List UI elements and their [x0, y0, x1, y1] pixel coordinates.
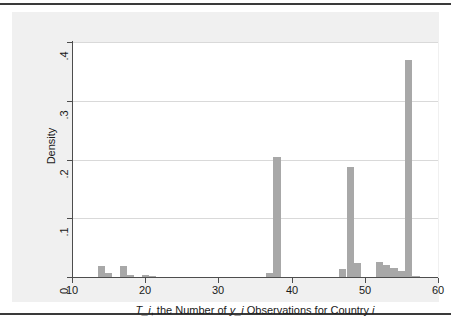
y-tick-label: .3 [58, 100, 70, 130]
x-axis-title: T_i, the Number of y_i Observations for … [72, 304, 438, 316]
y-tick-label: .4 [58, 41, 70, 71]
histogram-bar [98, 266, 105, 277]
x-tick-mark [145, 278, 146, 283]
gridline-y [73, 42, 438, 43]
x-tick-mark [218, 278, 219, 283]
x-tick-label: 10 [52, 284, 92, 296]
figure-container: 0.1.2.3.4 102030405060 Density T_i, the … [0, 0, 451, 328]
gridline-y [73, 160, 438, 161]
chart-panel: 0.1.2.3.4 102030405060 Density T_i, the … [12, 12, 439, 302]
histogram-bar [339, 269, 346, 277]
histogram-bar [383, 265, 390, 277]
x-tick-mark [292, 278, 293, 283]
x-tick-label: 30 [198, 284, 238, 296]
x-tick-label: 60 [418, 284, 451, 296]
histogram-bar [376, 262, 383, 277]
top-divider-rule [0, 3, 451, 5]
histogram-bar [120, 266, 127, 277]
x-tick-mark [365, 278, 366, 283]
x-tick-mark [72, 278, 73, 283]
gridline-y [73, 218, 438, 219]
x-tick-mark [438, 278, 439, 283]
x-tick-label: 40 [272, 284, 312, 296]
y-tick-label: .2 [58, 159, 70, 189]
histogram-bar [273, 157, 280, 277]
y-tick-label: .1 [58, 217, 70, 247]
y-axis-title: Density [45, 101, 57, 191]
histogram-bar [354, 263, 361, 277]
histogram-bar [390, 268, 397, 277]
histogram-bar [405, 60, 412, 277]
gridline-y [73, 101, 438, 102]
x-axis-line [72, 277, 438, 278]
histogram-bar [347, 167, 354, 277]
x-tick-label: 20 [125, 284, 165, 296]
x-tick-label: 50 [345, 284, 385, 296]
